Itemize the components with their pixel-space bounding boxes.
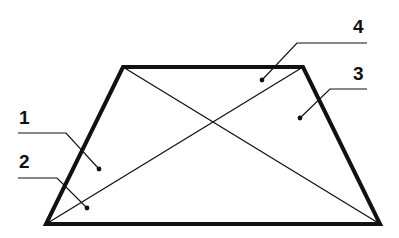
callout-dot	[97, 167, 102, 172]
trapezoid-diagram: 1234	[0, 0, 399, 238]
callouts: 1234	[18, 16, 367, 210]
callout-label: 1	[19, 107, 30, 128]
callout-label: 2	[19, 151, 30, 172]
leader-line	[300, 89, 367, 118]
trapezoid-outline	[46, 67, 380, 224]
callout-4: 4	[260, 16, 367, 82]
leader-line	[18, 178, 87, 208]
callout-dot	[260, 78, 265, 83]
callout-3: 3	[298, 63, 367, 120]
diagonals	[46, 67, 380, 224]
callout-label: 3	[353, 63, 364, 84]
callout-dot	[298, 116, 303, 121]
diagram-canvas: 1234	[0, 0, 399, 238]
callout-label: 4	[353, 16, 364, 37]
callout-dot	[85, 206, 90, 211]
leader-line	[262, 43, 367, 80]
